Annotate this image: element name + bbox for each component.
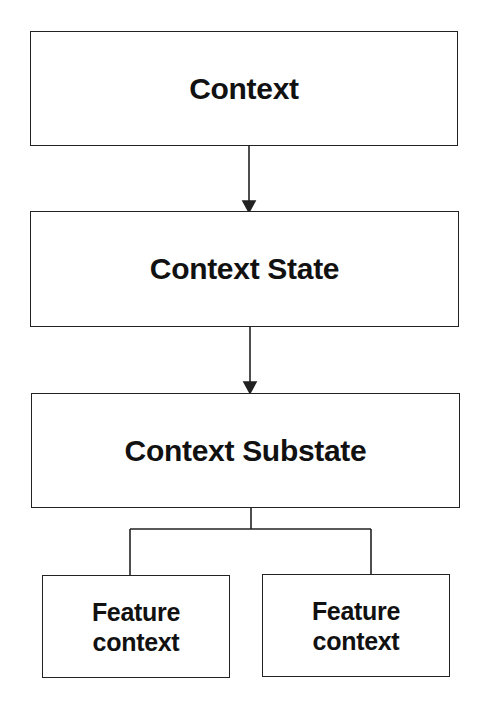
node-label-line1: Feature <box>312 596 400 626</box>
node-context-substate: Context Substate <box>31 393 460 508</box>
node-context-state: Context State <box>30 211 459 327</box>
arrowhead-icon <box>244 382 256 393</box>
node-feature-context-2: Feature context <box>262 574 450 677</box>
node-label-line2: context <box>93 627 180 657</box>
node-label-line1: Feature <box>92 597 180 627</box>
node-label: Context <box>189 72 299 106</box>
node-label: Context Substate <box>125 434 367 468</box>
node-label: Context State <box>150 252 339 286</box>
node-label-line2: context <box>313 626 400 656</box>
node-context: Context <box>30 31 458 146</box>
node-feature-context-1: Feature context <box>42 575 230 678</box>
